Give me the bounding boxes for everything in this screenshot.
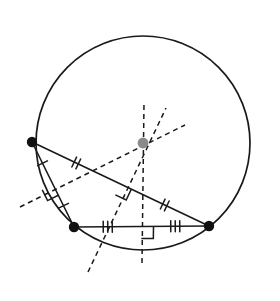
perpendicular-bisector-ac	[88, 108, 166, 272]
triangle-side-ac	[32, 142, 209, 226]
triangle-sides	[32, 142, 209, 227]
right-angle-square-bc	[141, 226, 153, 238]
triangle-side-bc	[74, 226, 209, 227]
circumcenter-point	[138, 138, 149, 149]
right-angle-square-ac	[115, 189, 131, 200]
vertex-point-c	[204, 221, 214, 231]
circumcircle-diagram	[0, 0, 280, 301]
triangle-side-ab	[32, 142, 74, 227]
perpendicular-bisectors	[20, 103, 185, 272]
vertex-point-b	[69, 222, 79, 232]
vertex-point-a	[27, 137, 37, 147]
geometry-figure	[0, 0, 280, 301]
